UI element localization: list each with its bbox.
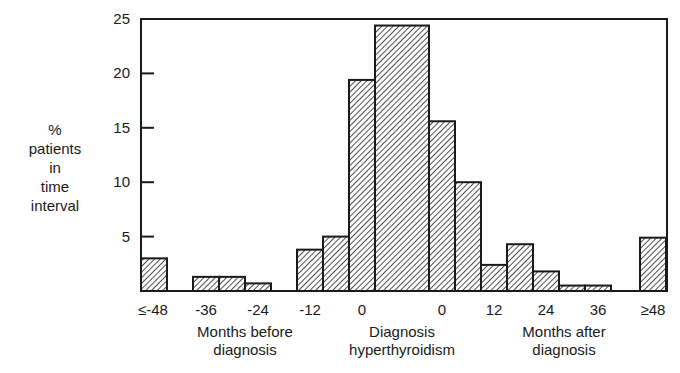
histogram-bar — [429, 121, 455, 291]
y-label-line: in — [0, 158, 110, 177]
histogram-bar — [640, 238, 666, 291]
y-axis-label: % patients in time interval — [0, 120, 110, 215]
x-tick-label: ≥48 — [641, 301, 666, 318]
histogram-bar — [481, 265, 507, 291]
histogram-bar — [193, 277, 219, 291]
histogram-bar — [349, 80, 375, 291]
x-group-line: diagnosis — [180, 341, 310, 359]
y-label-line: % — [0, 120, 110, 139]
x-group-line: diagnosis — [504, 341, 624, 359]
x-tick-label: -36 — [195, 301, 217, 318]
y-tick-label: 5 — [122, 228, 130, 245]
x-tick-label: 0 — [438, 301, 446, 318]
histogram-bar — [297, 250, 323, 291]
y-tick-label: 25 — [113, 10, 130, 27]
histogram-bar — [323, 237, 349, 291]
x-group-line: hyperthyroidism — [332, 341, 472, 359]
x-group-line: Months after — [504, 323, 624, 341]
x-tick-label: -24 — [247, 301, 269, 318]
x-tick-label: 0 — [358, 301, 366, 318]
y-label-line: interval — [0, 196, 110, 215]
y-label-line: patients — [0, 139, 110, 158]
histogram-bar — [141, 258, 167, 291]
histogram-bar — [219, 277, 245, 291]
x-tick-label: 12 — [486, 301, 503, 318]
y-tick-label: 10 — [113, 173, 130, 190]
x-group-line: Months before — [180, 323, 310, 341]
histogram-bar — [245, 283, 271, 291]
histogram-bar — [507, 244, 533, 291]
x-tick-label: 24 — [538, 301, 555, 318]
y-tick-label: 15 — [113, 119, 130, 136]
x-group-label-before: Months before diagnosis — [180, 323, 310, 359]
x-axis: ≤-48-36-24-1200122436≥48 — [138, 301, 665, 318]
x-tick-label: 36 — [590, 301, 607, 318]
y-tick-label: 20 — [113, 64, 130, 81]
x-tick-label: -12 — [299, 301, 321, 318]
histogram-bar — [375, 26, 429, 291]
histogram-bar — [455, 182, 481, 291]
x-group-label-diagnosis: Diagnosis hyperthyroidism — [332, 323, 472, 359]
x-tick-label: ≤-48 — [138, 301, 168, 318]
histogram-bar — [533, 271, 559, 291]
y-axis: 510152025 — [113, 10, 154, 245]
y-label-line: time — [0, 177, 110, 196]
x-group-label-after: Months after diagnosis — [504, 323, 624, 359]
bars-group — [141, 26, 666, 291]
x-group-line: Diagnosis — [332, 323, 472, 341]
